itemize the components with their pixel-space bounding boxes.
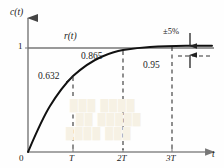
plot-canvas xyxy=(0,0,224,168)
y-axis-label: c(t) xyxy=(10,8,23,18)
origin-label: 0 xyxy=(19,154,24,163)
reference-label: r(t) xyxy=(64,32,77,42)
y-tick-label-one: 1 xyxy=(18,42,23,51)
x-axis-label: t xyxy=(212,150,215,160)
tolerance-label: ±5% xyxy=(163,27,179,36)
leader-0632 xyxy=(66,77,73,83)
value-label-0632: 0.632 xyxy=(38,72,59,82)
value-label-0865: 0.865 xyxy=(81,52,102,62)
x-tick-label-T: T xyxy=(69,154,74,163)
x-tick-label-3T: 3T xyxy=(166,154,176,163)
x-tick-label-2T: 2T xyxy=(117,154,127,163)
response-curve xyxy=(28,46,212,152)
value-label-095: 0.95 xyxy=(143,61,160,71)
step-response-figure: ███ ████ ██ █████ ████ ███ c(t) t r(t) 1… xyxy=(0,0,224,168)
